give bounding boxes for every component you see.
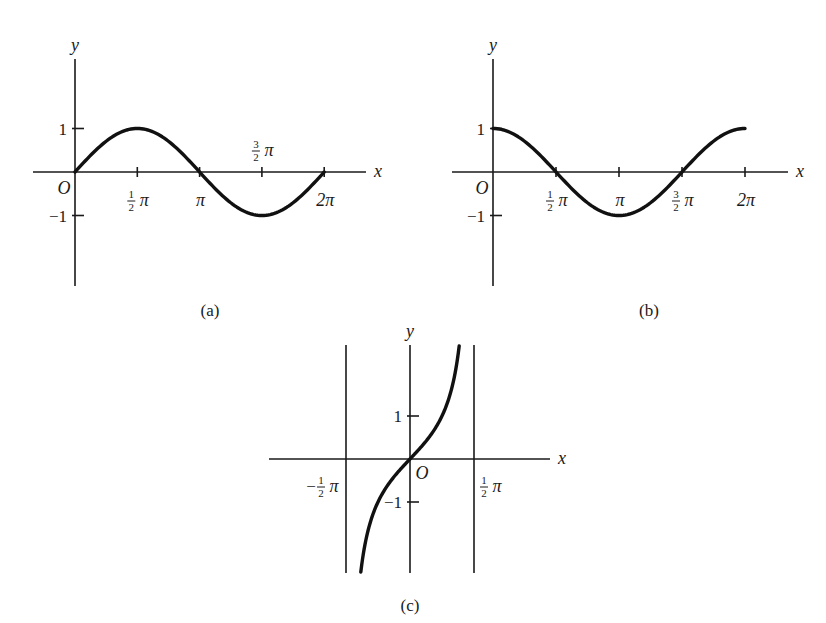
graph-c-tangent: xyO1−1−12π12π(c) <box>269 321 566 615</box>
pi-symbol: π <box>558 190 568 210</box>
x-axis-label: x <box>795 161 804 181</box>
figure-caption: (c) <box>401 596 420 615</box>
y-tick-label: 1 <box>59 120 68 139</box>
pi-symbol: π <box>492 476 502 496</box>
y-tick-label: −1 <box>384 493 402 512</box>
figure-caption: (b) <box>639 301 659 320</box>
x-tick-label: π <box>196 190 206 210</box>
fraction-denominator: 2 <box>547 201 553 213</box>
x-tick-label: 32π <box>672 188 694 213</box>
pi-symbol: π <box>684 190 694 210</box>
fraction-numerator: 3 <box>253 138 259 150</box>
pi-symbol: π <box>329 476 339 496</box>
x-axis-label: x <box>557 448 566 468</box>
y-axis-label: y <box>69 35 79 55</box>
fraction-numerator: 1 <box>547 188 553 200</box>
x-tick-label: 12π <box>127 188 149 213</box>
x-tick-label: −12π <box>306 474 339 499</box>
fraction-denominator: 2 <box>318 487 324 499</box>
x-axis-label: x <box>373 161 382 181</box>
fraction-numerator: 1 <box>318 474 324 486</box>
y-tick-label: 1 <box>394 407 403 426</box>
graph-a-sine: xyO1−112ππ32π2π(a) <box>33 35 382 320</box>
x-tick-label: 2π <box>316 190 335 210</box>
origin-label: O <box>476 178 489 198</box>
figure-caption: (a) <box>201 301 220 320</box>
graphs-svg: xyO1−112ππ32π2π(a) xyO1−112ππ32π2π(b) xy… <box>0 0 826 623</box>
pi-symbol: π <box>264 140 274 160</box>
graph-b-cosine: xyO1−112ππ32π2π(b) <box>452 35 804 320</box>
fraction-denominator: 2 <box>253 151 259 163</box>
fraction-numerator: 1 <box>481 474 487 486</box>
x-tick-label: π <box>615 190 625 210</box>
x-tick-label: 12π <box>546 188 568 213</box>
pi-symbol: π <box>140 190 150 210</box>
x-tick-label: 2π <box>737 190 756 210</box>
fraction-numerator: 1 <box>129 188 135 200</box>
trig-graphs-figure: xyO1−112ππ32π2π(a) xyO1−112ππ32π2π(b) xy… <box>0 0 826 623</box>
y-axis-label: y <box>487 35 497 55</box>
x-tick-label: 32π <box>252 138 274 163</box>
fraction-denominator: 2 <box>481 487 487 499</box>
fraction-denominator: 2 <box>129 201 135 213</box>
fraction-numerator: 3 <box>673 188 679 200</box>
fraction-denominator: 2 <box>673 201 679 213</box>
y-tick-label: −1 <box>467 207 485 226</box>
origin-label: O <box>58 178 71 198</box>
y-tick-label: 1 <box>477 120 486 139</box>
y-tick-label: −1 <box>49 207 67 226</box>
minus-sign: − <box>306 477 316 496</box>
origin-label: O <box>416 463 429 483</box>
x-tick-label: 12π <box>480 474 502 499</box>
y-axis-label: y <box>404 321 414 341</box>
